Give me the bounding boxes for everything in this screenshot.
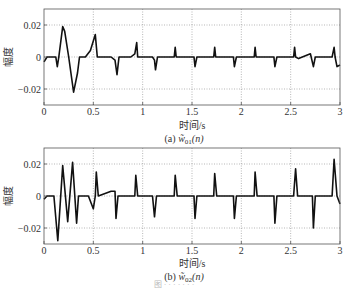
x-tick-label: 2 xyxy=(239,106,244,117)
x-tick-label: 0.5 xyxy=(87,106,100,117)
y-tick-label: −0.02 xyxy=(18,223,41,234)
figure-caption: 图 · · · · · · · xyxy=(154,280,195,289)
figure: 00.511.522.530.020−0.02幅度时间/s(a) w̃01(n)… xyxy=(0,0,349,290)
x-tick-label: 2.5 xyxy=(284,106,297,117)
x-tick-label: 2 xyxy=(239,245,244,256)
panel-a: 00.511.522.530.020−0.02幅度时间/s(a) w̃01(n) xyxy=(2,9,343,146)
panel-b: 00.511.522.530.020−0.02幅度时间/s(b) w̃02(n) xyxy=(2,148,343,284)
y-tick-label: 0 xyxy=(36,52,41,63)
x-tick-label: 0 xyxy=(42,106,47,117)
x-tick-label: 1.5 xyxy=(186,106,199,117)
x-tick-label: 2.5 xyxy=(284,245,297,256)
y-axis-label: 幅度 xyxy=(2,47,14,67)
x-tick-label: 0 xyxy=(42,245,47,256)
x-tick-label: 3 xyxy=(338,106,343,117)
y-tick-label: −0.02 xyxy=(18,84,41,95)
y-tick-label: 0.02 xyxy=(24,20,42,31)
x-tick-label: 1 xyxy=(140,106,145,117)
y-axis-label: 幅度 xyxy=(2,186,14,206)
x-tick-label: 3 xyxy=(338,245,343,256)
subplot-caption: (a) w̃01(n) xyxy=(165,133,205,146)
y-tick-label: 0.02 xyxy=(24,159,42,170)
x-tick-label: 1.5 xyxy=(186,245,199,256)
y-tick-label: 0 xyxy=(36,191,41,202)
x-tick-label: 1 xyxy=(140,245,145,256)
x-tick-label: 0.5 xyxy=(87,245,100,256)
x-axis-label: 时间/s xyxy=(179,119,206,131)
x-axis-label: 时间/s xyxy=(179,257,206,269)
